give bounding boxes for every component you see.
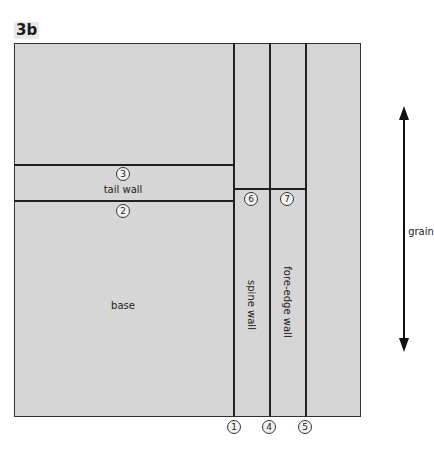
grain-arrow-down-icon [399, 338, 409, 352]
fore-edge-wall-label: fore-edge wall [282, 266, 293, 337]
marker-7: 7 [280, 192, 294, 206]
cut-line-6-7 [233, 188, 306, 190]
fold-line-5 [305, 43, 307, 417]
marker-3: 3 [116, 167, 130, 181]
marker-1: 1 [227, 420, 241, 434]
tail-wall-label: tail wall [104, 184, 143, 195]
fold-line-4 [269, 43, 271, 417]
figure-label: 3b [14, 22, 39, 39]
fold-line-3 [14, 164, 234, 166]
base-label: base [111, 300, 135, 311]
grain-label: grain [408, 226, 434, 237]
marker-5: 5 [298, 420, 312, 434]
marker-2: 2 [116, 204, 130, 218]
spine-wall-label: spine wall [246, 280, 257, 330]
marker-4: 4 [262, 420, 276, 434]
grain-arrow-shaft [403, 118, 405, 342]
board-outline [14, 43, 361, 417]
fold-line-2 [14, 200, 234, 202]
marker-6: 6 [244, 192, 258, 206]
fold-line-1 [233, 43, 235, 417]
